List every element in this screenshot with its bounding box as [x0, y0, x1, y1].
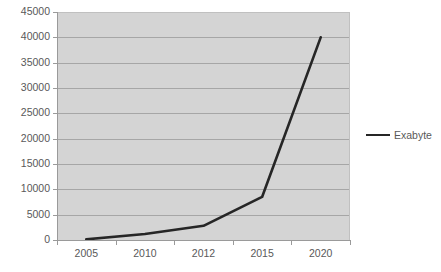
x-tick-label: 2015	[250, 247, 273, 259]
y-tick-label: 10000	[2, 183, 50, 194]
series-exabyte	[57, 12, 350, 240]
x-tick-mark	[350, 241, 351, 245]
legend-line-swatch-exabyte	[366, 134, 390, 136]
chart-legend: Exabyte	[366, 129, 432, 141]
x-tick-mark	[233, 241, 234, 245]
x-tick-mark	[116, 241, 117, 245]
y-tick-label: 45000	[2, 6, 50, 17]
x-tick-label: 2010	[133, 247, 156, 259]
y-tick-label: 25000	[2, 107, 50, 118]
x-tick-label: 2005	[75, 247, 98, 259]
x-axis-line	[57, 240, 351, 241]
y-axis-tick-labels: 0500010000150002000025000300003500040000…	[0, 0, 50, 272]
y-tick-label: 40000	[2, 31, 50, 42]
x-tick-mark	[291, 241, 292, 245]
x-tick-label: 2012	[192, 247, 215, 259]
series-line-exabyte	[86, 37, 320, 239]
y-tick-label: 30000	[2, 82, 50, 93]
y-tick-label: 5000	[2, 209, 50, 220]
line-chart: 0500010000150002000025000300003500040000…	[0, 0, 441, 272]
y-tick-label: 20000	[2, 133, 50, 144]
y-tick-label: 15000	[2, 158, 50, 169]
x-tick-mark	[57, 241, 58, 245]
y-tick-label: 35000	[2, 57, 50, 68]
y-tick-label: 0	[2, 234, 50, 245]
x-tick-mark	[174, 241, 175, 245]
legend-label-exabyte: Exabyte	[394, 129, 432, 141]
x-tick-label: 2020	[309, 247, 332, 259]
